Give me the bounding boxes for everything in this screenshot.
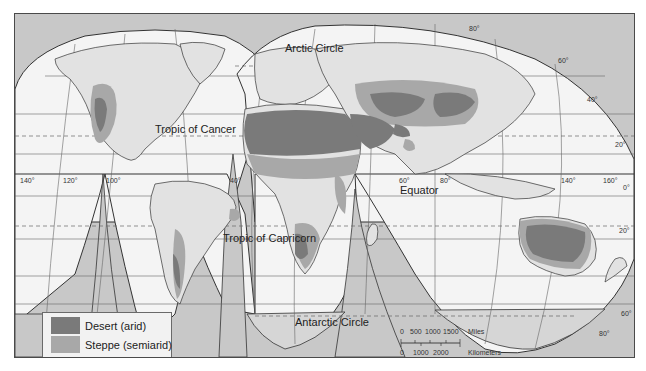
longitude-label: 60° — [399, 177, 410, 184]
arctic-circle-label: Arctic Circle — [285, 42, 344, 54]
latitude-label: 20° — [619, 227, 630, 234]
legend: Desert (arid) Steppe (semiarid) — [42, 312, 172, 358]
antarctic-circle-label: Antarctic Circle — [295, 316, 369, 328]
legend-item-steppe: Steppe (semiarid) — [51, 336, 172, 353]
legend-item-desert: Desert (arid) — [51, 317, 146, 334]
scale-miles-unit: Miles — [468, 328, 485, 335]
longitude-label: 100° — [106, 177, 121, 184]
longitude-label: 80° — [440, 177, 451, 184]
scale-km-tick: 2000 — [433, 349, 449, 356]
world-map: Arctic Circle Tropic of Cancer Equator T… — [15, 14, 634, 357]
latitude-label: 80° — [469, 25, 480, 32]
scale-miles-tick: 1500 — [443, 328, 459, 335]
scale-miles-tick: 1000 — [425, 328, 441, 335]
legend-label-steppe: Steppe (semiarid) — [85, 339, 172, 351]
latitude-label: 60° — [558, 57, 569, 64]
scale-km-tick: 1000 — [413, 349, 429, 356]
scale-km-tick: 0 — [400, 349, 404, 356]
equator-label: Equator — [400, 184, 439, 196]
latitude-label: 20° — [615, 141, 626, 148]
desert-sahara — [244, 110, 361, 156]
longitude-label: 140° — [20, 177, 35, 184]
tropic-of-capricorn-label: Tropic of Capricorn — [223, 232, 316, 244]
desert-swatch — [51, 317, 80, 334]
legend-label-desert: Desert (arid) — [85, 320, 146, 332]
longitude-label: 140° — [561, 177, 576, 184]
latitude-label: 40° — [587, 96, 598, 103]
latitude-label: 60° — [621, 310, 632, 317]
longitude-label: 120° — [63, 177, 78, 184]
tropic-of-cancer-label: Tropic of Cancer — [155, 123, 236, 135]
longitude-label: 40° — [230, 177, 241, 184]
scale-miles-tick: 500 — [410, 328, 422, 335]
scale-miles-tick: 0 — [400, 328, 404, 335]
steppe-swatch — [51, 336, 80, 353]
scale-km-unit: Kilometers — [468, 349, 502, 356]
map-frame: Arctic Circle Tropic of Cancer Equator T… — [14, 13, 635, 358]
latitude-label: 80° — [599, 330, 610, 337]
latitude-label: 0° — [623, 184, 630, 191]
longitude-label: 160° — [603, 177, 618, 184]
